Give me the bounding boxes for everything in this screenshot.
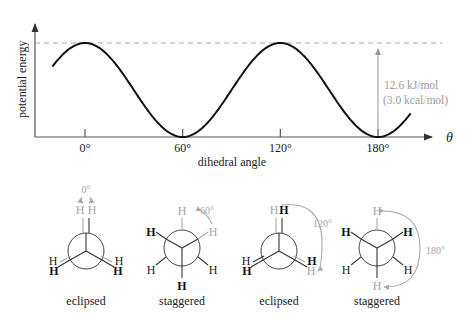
x-axis-label: dihedral angle <box>198 155 266 169</box>
newman-eclipsed-0: 0° H H H H H H eclipsed <box>49 184 124 308</box>
conformer-label: eclipsed <box>66 294 105 308</box>
angle-label-60: 60° <box>200 205 214 216</box>
h-atom: H <box>209 263 218 277</box>
conformer-label: eclipsed <box>259 294 298 308</box>
barrier-label-kcal: (3.0 kcal/mol) <box>383 94 448 107</box>
newman-staggered-180: H H H H H H 180° staggered <box>341 204 445 308</box>
h-atom: H <box>404 263 413 277</box>
angle-label-0: 0° <box>82 184 91 195</box>
h-atom: H <box>178 204 187 218</box>
h-atom: H <box>113 264 123 278</box>
angle-label-180: 180° <box>426 245 445 256</box>
h-atom: H <box>270 203 279 217</box>
h-atom: H <box>307 264 316 278</box>
energy-curve <box>52 43 410 137</box>
y-axis-label: potential energy <box>15 41 29 118</box>
x-axis-symbol: θ <box>446 130 453 145</box>
h-atom: H <box>88 203 97 217</box>
h-atom: H <box>177 279 187 293</box>
newman-staggered-60: H H H H H H 60° staggered <box>146 204 217 308</box>
newman-eclipsed-120: H H H H H H 120° eclipsed <box>242 203 332 308</box>
h-atom: H <box>373 279 382 293</box>
h-atom: H <box>341 225 351 239</box>
h-atom: H <box>146 225 156 239</box>
h-atom: H <box>373 204 382 218</box>
h-atom: H <box>403 225 413 239</box>
h-atom: H <box>76 203 85 217</box>
barrier-label-kj: 12.6 kJ/mol <box>384 79 438 91</box>
conformer-label: staggered <box>354 294 400 308</box>
conformer-label: staggered <box>159 294 205 308</box>
h-atom: H <box>209 225 218 239</box>
x-tick-label: 60° <box>174 141 191 155</box>
x-tick-label: 180° <box>367 141 390 155</box>
x-tick-label: 120° <box>269 141 292 155</box>
h-atom: H <box>242 264 252 278</box>
angle-label-120: 120° <box>313 218 332 229</box>
h-atom: H <box>147 263 156 277</box>
x-tick-label: 0° <box>80 141 91 155</box>
h-atom: H <box>49 264 59 278</box>
energy-diagram: θ potential energy dihedral angle 0°60°1… <box>0 0 467 319</box>
h-atom: H <box>342 263 351 277</box>
